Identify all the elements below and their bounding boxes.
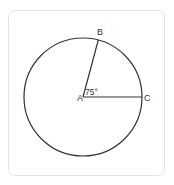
label-a: A (77, 93, 83, 103)
label-b: B (97, 27, 103, 37)
label-c: C (144, 93, 151, 103)
circle-diagram: A B C 75° (0, 0, 174, 185)
angle-label: 75° (85, 87, 98, 97)
